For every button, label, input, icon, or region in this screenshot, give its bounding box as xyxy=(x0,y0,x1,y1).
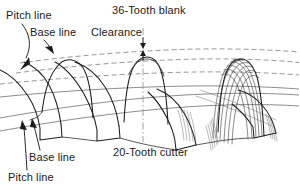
pitch-line-bottom-label: Pitch line xyxy=(8,171,54,183)
blank-title-label: 36-Tooth blank xyxy=(112,4,186,16)
pitch-line-top-label: Pitch line xyxy=(6,9,52,21)
base-line-top-label: Base line xyxy=(30,26,76,38)
cutter-title-label: 20-Tooth cutter xyxy=(113,146,188,158)
gear-generation-diagram: Pitch line Base line Clearance 36-Tooth … xyxy=(0,0,300,194)
base-line-bottom-label: Base line xyxy=(29,151,75,163)
diagram-canvas: Pitch line Base line Clearance 36-Tooth … xyxy=(0,0,300,194)
clearance-label: Clearance xyxy=(91,26,142,38)
